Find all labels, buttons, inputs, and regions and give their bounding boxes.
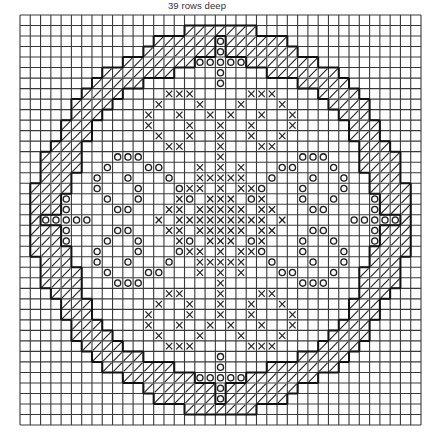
hatch-stitch-icon bbox=[42, 237, 50, 246]
cross-stitch-icon bbox=[176, 227, 182, 234]
hatch-stitch-icon bbox=[42, 174, 50, 183]
circle-stitch-icon bbox=[320, 154, 326, 160]
cross-stitch-icon bbox=[145, 322, 151, 329]
cross-stitch-icon bbox=[238, 185, 244, 192]
hatch-stitch-icon bbox=[52, 268, 60, 277]
hatch-stitch-icon bbox=[31, 195, 39, 204]
cross-stitch-icon bbox=[207, 217, 213, 224]
hatch-stitch-icon bbox=[31, 226, 39, 235]
cross-stitch-icon bbox=[217, 206, 223, 213]
hatch-stitch-icon bbox=[278, 37, 286, 46]
cross-stitch-icon bbox=[176, 322, 182, 329]
hatch-stitch-icon bbox=[350, 121, 358, 130]
hatch-stitch-icon bbox=[360, 310, 368, 319]
hatch-stitch-icon bbox=[381, 153, 389, 162]
hatch-stitch-icon bbox=[103, 363, 111, 372]
circle-stitch-icon bbox=[145, 269, 151, 275]
grid-svg bbox=[19, 14, 422, 426]
hatch-stitch-icon bbox=[114, 79, 122, 88]
hatch-stitch-icon bbox=[371, 268, 379, 277]
hatch-stitch-icon bbox=[360, 111, 368, 120]
hatch-stitch-icon bbox=[268, 48, 276, 57]
hatch-stitch-icon bbox=[155, 58, 163, 67]
hatch-stitch-icon bbox=[103, 331, 111, 340]
circle-stitch-icon bbox=[166, 259, 172, 265]
hatch-stitch-icon bbox=[288, 58, 296, 67]
hatch-stitch-icon bbox=[350, 132, 358, 141]
cross-stitch-icon bbox=[248, 343, 254, 350]
cross-stitch-icon bbox=[248, 248, 254, 255]
hatch-stitch-icon bbox=[288, 48, 296, 57]
hatch-stitch-icon bbox=[124, 79, 132, 88]
hatch-stitch-icon bbox=[381, 205, 389, 214]
cross-stitch-icon bbox=[248, 311, 254, 318]
hatch-stitch-icon bbox=[186, 405, 194, 414]
hatch-stitch-icon bbox=[93, 321, 101, 330]
hatch-stitch-icon bbox=[62, 310, 70, 319]
cross-stitch-icon bbox=[156, 332, 162, 339]
cross-stitch-icon bbox=[217, 311, 223, 318]
hatch-stitch-icon bbox=[165, 58, 173, 67]
circle-stitch-icon bbox=[156, 164, 162, 170]
hatch-stitch-icon bbox=[52, 195, 60, 204]
hatch-stitch-icon bbox=[144, 363, 152, 372]
hatch-stitch-icon bbox=[340, 111, 348, 120]
hatch-stitch-icon bbox=[93, 111, 101, 120]
hatch-stitch-icon bbox=[309, 363, 317, 372]
hatch-stitch-icon bbox=[401, 205, 409, 214]
cross-stitch-icon bbox=[197, 101, 203, 108]
circle-stitch-icon bbox=[125, 280, 131, 286]
hatch-stitch-icon bbox=[350, 111, 358, 120]
cross-stitch-icon bbox=[248, 91, 254, 98]
hatch-stitch-icon bbox=[134, 363, 142, 372]
hatch-stitch-icon bbox=[83, 111, 91, 120]
cross-stitch-icon bbox=[156, 133, 162, 140]
hatch-stitch-icon bbox=[186, 373, 194, 382]
hatch-stitch-icon bbox=[72, 279, 80, 288]
hatch-stitch-icon bbox=[186, 58, 194, 67]
hatch-stitch-icon bbox=[62, 153, 70, 162]
circle-stitch-icon bbox=[300, 185, 306, 191]
cross-stitch-icon bbox=[166, 206, 172, 213]
circle-stitch-icon bbox=[135, 196, 141, 202]
cross-stitch-icon bbox=[197, 332, 203, 339]
cross-stitch-icon bbox=[238, 259, 244, 266]
hatch-stitch-icon bbox=[329, 90, 337, 99]
hatch-stitch-icon bbox=[360, 331, 368, 340]
hatch-stitch-icon bbox=[278, 58, 286, 67]
hatch-stitch-icon bbox=[134, 79, 142, 88]
hatch-stitch-icon bbox=[72, 142, 80, 151]
hatch-stitch-icon bbox=[196, 48, 204, 57]
cross-stitch-icon bbox=[228, 259, 234, 266]
cross-stitch-icon bbox=[238, 164, 244, 171]
hatch-stitch-icon bbox=[371, 247, 379, 256]
hatch-stitch-icon bbox=[360, 321, 368, 330]
circle-stitch-icon bbox=[53, 217, 59, 223]
hatch-stitch-icon bbox=[196, 384, 204, 393]
hatch-stitch-icon bbox=[371, 279, 379, 288]
circle-stitch-icon bbox=[197, 375, 203, 381]
hatch-stitch-icon bbox=[391, 226, 399, 235]
circle-stitch-icon bbox=[135, 238, 141, 244]
circle-stitch-icon bbox=[310, 280, 316, 286]
cross-stitch-icon bbox=[289, 311, 295, 318]
cross-stitch-icon bbox=[228, 112, 234, 119]
hatch-stitch-icon bbox=[165, 363, 173, 372]
cross-stitch-icon bbox=[217, 227, 223, 234]
cross-stitch-icon bbox=[217, 175, 223, 182]
cross-stitch-icon bbox=[269, 91, 275, 98]
hatch-stitch-icon bbox=[360, 163, 368, 172]
circle-stitch-icon bbox=[300, 154, 306, 160]
hatch-stitch-icon bbox=[165, 69, 173, 78]
hatch-stitch-icon bbox=[52, 258, 60, 267]
cross-stitch-icon bbox=[197, 259, 203, 266]
hatch-stitch-icon bbox=[186, 384, 194, 393]
cross-stitch-icon bbox=[197, 164, 203, 171]
hatch-stitch-icon bbox=[52, 279, 60, 288]
hatch-stitch-icon bbox=[278, 384, 286, 393]
hatch-stitch-icon bbox=[329, 363, 337, 372]
circle-stitch-icon bbox=[63, 238, 69, 244]
hatch-stitch-icon bbox=[329, 69, 337, 78]
hatch-stitch-icon bbox=[155, 363, 163, 372]
hatch-stitch-icon bbox=[165, 37, 173, 46]
